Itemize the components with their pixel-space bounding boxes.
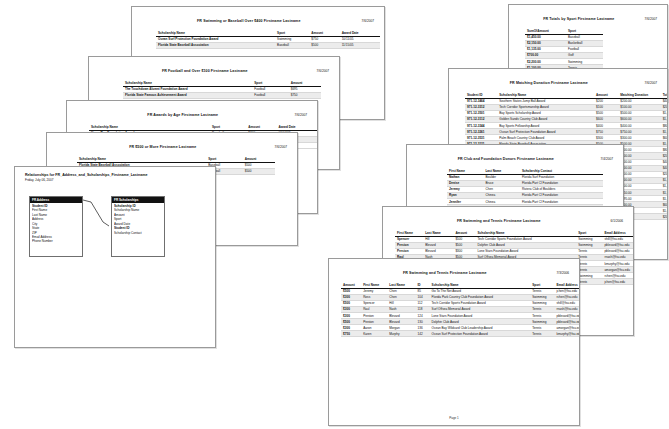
relationship-field: Phone Number xyxy=(32,239,80,243)
report-title: FR Football and Over $100 Firstname Last… xyxy=(99,69,311,73)
table-cell: jchen@fsu.edu xyxy=(602,279,634,285)
report-date: 7/6/2007 xyxy=(311,69,329,73)
table-cell: Florida State Famous Achievement Award xyxy=(123,92,252,98)
table-row[interactable]: Florida State Baseball AssociationBaseba… xyxy=(156,42,380,48)
table-cell: 11/15/05 xyxy=(340,42,380,48)
report-title: FR Club and Foundation Donors Firstname … xyxy=(417,157,595,161)
table-row[interactable]: Florida State Famous Achievement AwardFo… xyxy=(123,92,321,98)
page-footer: Page 1 xyxy=(329,416,579,420)
report-date: 6/1/2006 xyxy=(605,219,623,223)
report-date: 7/6/2007 xyxy=(289,113,307,117)
table-cell: $750 xyxy=(289,92,321,98)
relationships-title: Relationships for FR_Address_and_Scholar… xyxy=(25,173,205,177)
report-date: 7/3/2006 xyxy=(551,271,569,275)
report-date: 7/6/2007 xyxy=(356,19,374,23)
report-title: FR Matching Donation Firstname Lastname xyxy=(459,81,639,85)
report-title: FR Awards by Age Firstname Lastname xyxy=(77,113,289,117)
table-row[interactable]: $750KarenMurphy142Ocean Surf Protection … xyxy=(341,331,580,337)
relationship-field: Scholarship Contact xyxy=(114,231,162,235)
relationship-table[interactable]: FR AddressStudent IDFirst NameLast NameA… xyxy=(29,196,83,257)
report-date: 7/6/2007 xyxy=(639,17,657,21)
report-table: AmountFirst NameLast NameIDScholarship N… xyxy=(341,282,580,337)
relationships-sheet[interactable]: Relationships for FR_Address_and_Scholar… xyxy=(14,166,216,348)
report-table: Scholarship NameSportAmountAward DateOce… xyxy=(156,30,380,48)
table-cell: Tennis xyxy=(576,279,602,285)
table-cell: $750 xyxy=(341,331,361,337)
report-title: FR $500 or More Firstname Lastname xyxy=(57,145,269,149)
relationships-canvas: FR AddressStudent IDFirst NameLast NameA… xyxy=(25,192,205,302)
report-title: FR Swimming or Baseball Over $400 Firstn… xyxy=(142,19,356,23)
report-title: FR Swimming and Tennis Firstname Lastnam… xyxy=(339,271,551,275)
report-title: FR Swimming and Tennis Firstname Lastnam… xyxy=(393,219,605,223)
table-cell: Murphy xyxy=(387,331,415,337)
report-title: FR Totals by Sport Firstname Lastname xyxy=(519,17,639,21)
table-cell: Baseball xyxy=(275,42,309,48)
table-cell: Tennis xyxy=(530,331,554,337)
table-cell: 142 xyxy=(415,331,429,337)
table-cell: $500 xyxy=(243,168,275,174)
relationship-table[interactable]: FR ScholarshipsScholarship IDScholarship… xyxy=(111,196,165,257)
table-cell: $200.00 xyxy=(661,214,668,220)
report-table: Scholarship NameSportAmountThe Touchdown… xyxy=(123,80,321,98)
relationships-subtitle: Friday, July 06, 2007 xyxy=(25,178,205,182)
document-collage: FR Swimming or Baseball Over $400 Firstn… xyxy=(0,0,669,429)
table-cell: Karen xyxy=(361,331,387,337)
table-cell: Ocean Surf Protection Foundation Award xyxy=(430,331,531,337)
table-cell: Florida State Baseball Association xyxy=(156,42,275,48)
report-sheet[interactable]: FR Swimming and Tennis Firstname Lastnam… xyxy=(328,258,580,426)
report-date: 7/4/2007 xyxy=(595,157,613,161)
table-cell: kmurphy@fsu.edu xyxy=(554,331,580,337)
report-date: 7/6/2007 xyxy=(639,81,657,85)
table-cell: Football xyxy=(252,92,288,98)
report-date: 7/6/2007 xyxy=(269,145,287,149)
table-cell: $500 xyxy=(309,42,339,48)
